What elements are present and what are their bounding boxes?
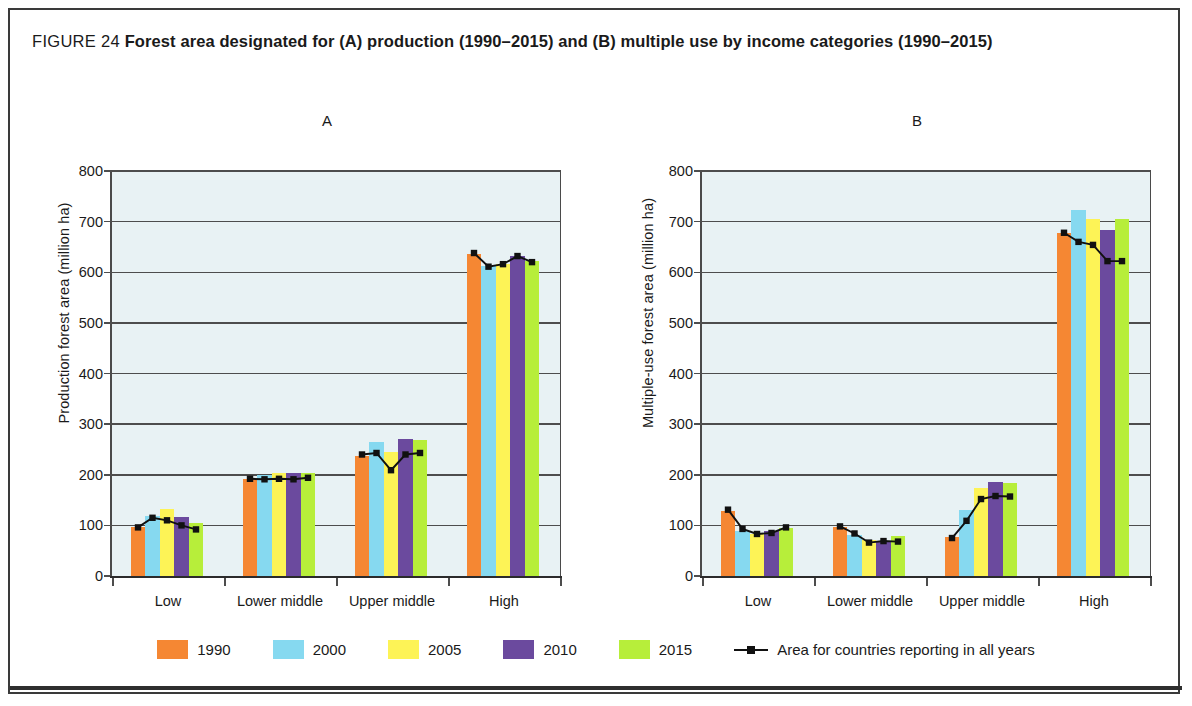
y-axis-tick-mark <box>104 474 112 476</box>
x-axis-tick-mark <box>224 576 226 586</box>
bar-1990-high <box>467 254 482 576</box>
x-axis-tick-mark <box>1150 576 1152 586</box>
x-axis-tick-mark <box>448 576 450 586</box>
y-axis-tick-mark <box>694 423 702 425</box>
bar-1990-high <box>1057 233 1072 576</box>
bar-1990-lower-middle <box>243 479 258 576</box>
panel-a-plot-area: 0100200300400500600700800LowLower middle… <box>110 170 561 576</box>
line-marker-icon <box>734 644 768 656</box>
legend-item-reference-line: Area for countries reporting in all year… <box>734 641 1035 658</box>
x-axis-category-label: Lower middle <box>827 593 913 609</box>
bar-2005-upper-middle <box>384 452 399 576</box>
y-axis-tick-mark <box>694 170 702 172</box>
bar-2010-low <box>764 531 779 576</box>
x-axis-category-label: Low <box>155 593 182 609</box>
y-axis-tick-label: 600 <box>669 264 693 280</box>
x-axis-tick-mark <box>1038 576 1040 586</box>
bar-2010-lower-middle <box>286 473 301 576</box>
bar-2010-upper-middle <box>988 482 1003 576</box>
y-axis-tick-mark <box>104 221 112 223</box>
x-axis-category-label: Upper middle <box>349 593 435 609</box>
bar-2000-low <box>145 516 160 576</box>
bar-2010-low <box>174 517 189 576</box>
x-axis-category-label: Lower middle <box>237 593 323 609</box>
y-axis-tick-mark <box>694 474 702 476</box>
y-axis-tick-label: 200 <box>79 467 103 483</box>
bar-2000-upper-middle <box>959 510 974 576</box>
x-axis-tick-mark <box>702 576 704 586</box>
bar-2000-upper-middle <box>369 442 384 576</box>
bar-2005-low <box>160 509 175 576</box>
legend-label: 2015 <box>659 641 692 658</box>
legend-label: Area for countries reporting in all year… <box>777 641 1035 658</box>
x-axis-tick-mark <box>112 576 114 586</box>
bottom-divider <box>10 686 1182 690</box>
panel-a-letter: A <box>64 112 626 129</box>
y-axis-tick-mark <box>104 423 112 425</box>
bar-2005-upper-middle <box>974 488 989 576</box>
gridline <box>702 170 1150 172</box>
gridline <box>112 221 560 223</box>
y-axis-tick-label: 0 <box>95 568 103 584</box>
panel-a-y-axis-title: Production forest area (million ha) <box>56 123 72 503</box>
bar-2010-lower-middle <box>876 541 891 576</box>
y-axis-tick-label: 100 <box>669 517 693 533</box>
x-axis-tick-mark <box>814 576 816 586</box>
bar-2015-upper-middle <box>1003 483 1018 576</box>
legend-swatch-icon <box>619 640 650 659</box>
bar-2000-lower-middle <box>847 535 862 577</box>
y-axis-tick-label: 300 <box>669 416 693 432</box>
y-axis-tick-mark <box>104 170 112 172</box>
legend-swatch-icon <box>273 640 304 659</box>
legend-label: 1990 <box>197 641 230 658</box>
bar-2005-lower-middle <box>272 473 287 576</box>
bar-2000-low <box>735 531 750 576</box>
y-axis-tick-mark <box>104 373 112 375</box>
y-axis-tick-label: 700 <box>669 214 693 230</box>
x-axis-tick-mark <box>560 576 562 586</box>
y-axis-tick-label: 400 <box>669 366 693 382</box>
legend-label: 2010 <box>543 641 576 658</box>
y-axis-tick-label: 300 <box>79 416 103 432</box>
legend-swatch-icon <box>157 640 188 659</box>
bar-2005-high <box>1086 219 1101 576</box>
bar-1990-low <box>131 527 146 576</box>
bar-2010-high <box>510 256 525 576</box>
y-axis-tick-mark <box>694 525 702 527</box>
legend-item-2015: 2015 <box>619 640 692 659</box>
y-axis-tick-mark <box>104 575 112 577</box>
x-axis-category-label: Low <box>745 593 772 609</box>
gridline <box>112 170 560 172</box>
legend-label: 2005 <box>428 641 461 658</box>
panel-b-letter: B <box>654 112 1192 129</box>
bar-2005-high <box>496 264 511 576</box>
legend-item-2010: 2010 <box>503 640 576 659</box>
y-axis-tick-mark <box>694 373 702 375</box>
bar-1990-low <box>721 511 736 576</box>
y-axis-tick-label: 400 <box>79 366 103 382</box>
figure-title: Forest area designated for (A) productio… <box>125 32 993 50</box>
bar-2000-high <box>1071 210 1086 576</box>
y-axis-tick-mark <box>104 525 112 527</box>
y-axis-tick-label: 200 <box>669 467 693 483</box>
x-axis-tick-mark <box>926 576 928 586</box>
panel-b-y-axis-title: Multiple-use forest area (million ha) <box>640 123 656 503</box>
legend-item-2005: 2005 <box>388 640 461 659</box>
legend-swatch-icon <box>503 640 534 659</box>
y-axis-tick-mark <box>694 322 702 324</box>
bar-2010-upper-middle <box>398 439 413 576</box>
bar-2005-lower-middle <box>862 540 877 576</box>
bar-2015-low <box>189 523 204 576</box>
y-axis-tick-label: 500 <box>669 315 693 331</box>
chart-panel-a: A Production forest area (million ha) 01… <box>28 110 590 620</box>
legend-label: 2000 <box>313 641 346 658</box>
x-axis-tick-mark <box>336 576 338 586</box>
bar-2000-lower-middle <box>257 475 272 576</box>
y-axis-tick-label: 600 <box>79 264 103 280</box>
figure-frame: FIGURE 24 Forest area designated for (A)… <box>8 8 1180 694</box>
bar-1990-lower-middle <box>833 527 848 576</box>
y-axis-tick-label: 500 <box>79 315 103 331</box>
bar-1990-upper-middle <box>945 537 960 576</box>
bar-2000-high <box>481 266 496 576</box>
chart-panel-b: B Multiple-use forest area (million ha) … <box>618 110 1180 620</box>
